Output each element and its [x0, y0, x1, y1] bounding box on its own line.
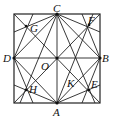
- line-D-G: [14, 14, 33, 58]
- point-E: [88, 89, 91, 92]
- point-A: [55, 101, 58, 104]
- label-O: O: [41, 60, 49, 72]
- label-A: A: [52, 106, 60, 118]
- label-K: K: [66, 77, 75, 89]
- label-H: H: [28, 83, 38, 95]
- label-G: G: [30, 22, 38, 34]
- label-F: F: [87, 14, 95, 26]
- point-H: [25, 89, 28, 92]
- point-D: [12, 56, 15, 59]
- label-B: B: [102, 52, 109, 64]
- line-D-H: [14, 58, 33, 103]
- label-E: E: [90, 78, 98, 90]
- point-O: [55, 56, 58, 59]
- geometry-diagram: C A D B O G F H E K: [0, 0, 113, 118]
- point-G: [25, 25, 28, 28]
- label-C: C: [53, 2, 61, 14]
- label-D: D: [2, 52, 11, 64]
